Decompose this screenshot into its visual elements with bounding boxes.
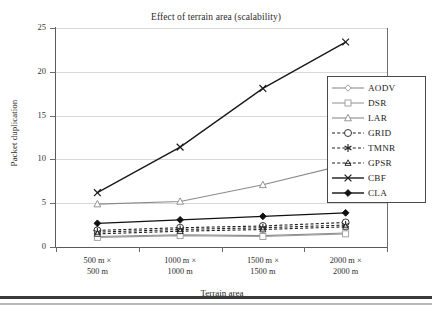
legend: AODVDSRLARGRIDTMNRGPSRCBFCLA — [327, 76, 426, 203]
data-point-marker — [342, 209, 349, 216]
legend-key-cbf-icon — [331, 171, 365, 185]
data-point-marker — [345, 129, 352, 136]
data-point-marker — [177, 216, 184, 223]
chart-figure: Effect of terrain area (scalability) 051… — [0, 0, 432, 314]
legend-key-dsr-icon — [331, 96, 365, 110]
legend-item-lar[interactable]: LAR — [331, 110, 423, 125]
legend-key-tmnr-icon — [331, 141, 365, 155]
series-cbf — [94, 39, 349, 196]
data-point-marker — [94, 189, 101, 196]
data-point-marker — [259, 85, 266, 92]
data-point-marker — [345, 84, 351, 90]
legend-label: AODV — [365, 83, 395, 93]
data-point-marker — [345, 189, 352, 196]
data-point-marker — [345, 100, 351, 106]
legend-item-tmnr[interactable]: TMNR — [331, 140, 423, 155]
legend-key-aodv-icon — [331, 81, 365, 95]
data-point-marker — [259, 213, 266, 220]
legend-label: GRID — [365, 128, 391, 138]
legend-key-cla-icon — [331, 186, 365, 200]
series-line — [97, 227, 345, 234]
page-edge-dark — [0, 296, 432, 299]
legend-label: GPSR — [365, 158, 392, 168]
legend-label: CBF — [365, 173, 386, 183]
legend-item-cla[interactable]: CLA — [331, 185, 423, 200]
legend-label: CLA — [365, 188, 387, 198]
legend-item-dsr[interactable]: DSR — [331, 95, 423, 110]
series-line — [97, 222, 345, 230]
data-point-marker — [342, 39, 349, 46]
data-point-marker — [343, 231, 349, 237]
data-point-marker — [260, 233, 266, 239]
legend-label: TMNR — [365, 143, 395, 153]
legend-item-gpsr[interactable]: GPSR — [331, 155, 423, 170]
legend-key-lar-icon — [331, 111, 365, 125]
legend-label: LAR — [365, 113, 387, 123]
series-lar — [94, 161, 349, 207]
data-point-marker — [94, 220, 101, 227]
series-line — [97, 165, 345, 204]
legend-label: DSR — [365, 98, 386, 108]
legend-key-gpsr-icon — [331, 156, 365, 170]
legend-item-aodv[interactable]: AODV — [331, 80, 423, 95]
legend-item-cbf[interactable]: CBF — [331, 170, 423, 185]
series-line — [97, 42, 345, 193]
series-line — [97, 225, 345, 232]
data-point-marker — [177, 144, 184, 151]
page-edge-light — [0, 303, 432, 305]
legend-key-grid-icon — [331, 126, 365, 140]
series-line — [97, 213, 345, 224]
legend-item-grid[interactable]: GRID — [331, 125, 423, 140]
